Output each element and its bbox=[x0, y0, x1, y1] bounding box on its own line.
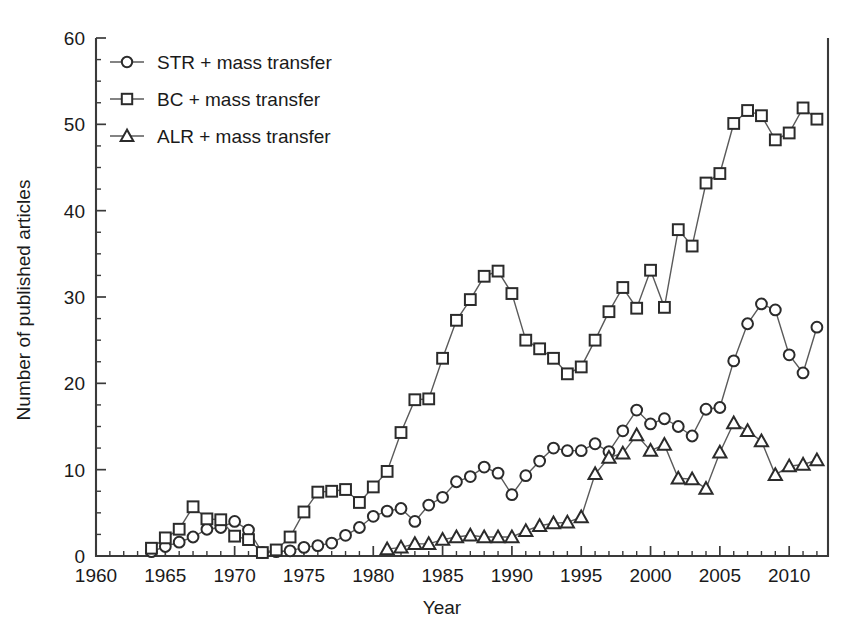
data-point bbox=[340, 484, 351, 495]
data-point bbox=[215, 514, 226, 525]
data-point bbox=[784, 349, 795, 360]
data-point bbox=[645, 265, 656, 276]
data-point bbox=[451, 315, 462, 326]
series-3 bbox=[381, 416, 824, 554]
data-point bbox=[174, 524, 185, 535]
data-point bbox=[285, 545, 296, 556]
data-point bbox=[798, 103, 809, 114]
data-point bbox=[812, 114, 823, 125]
data-point bbox=[562, 445, 573, 456]
data-point bbox=[285, 532, 296, 543]
data-point bbox=[756, 299, 767, 310]
data-point bbox=[396, 427, 407, 438]
data-point bbox=[188, 501, 199, 512]
series-1 bbox=[146, 299, 822, 558]
data-point bbox=[631, 405, 642, 416]
x-tick-label: 2005 bbox=[699, 565, 741, 586]
chart-figure: 1960196519701975198019851990199520002005… bbox=[0, 0, 848, 635]
data-point bbox=[741, 424, 754, 436]
data-point bbox=[505, 530, 518, 542]
data-point bbox=[770, 134, 781, 145]
data-point bbox=[756, 110, 767, 121]
data-point bbox=[658, 438, 671, 450]
x-tick-label: 1980 bbox=[352, 565, 394, 586]
data-point bbox=[409, 516, 420, 527]
data-point bbox=[354, 522, 365, 533]
data-point bbox=[617, 425, 628, 436]
data-point bbox=[491, 530, 504, 542]
data-point bbox=[229, 516, 240, 527]
data-point bbox=[520, 335, 531, 346]
data-point bbox=[534, 456, 545, 467]
data-point bbox=[520, 470, 531, 481]
x-tick-label: 2010 bbox=[768, 565, 810, 586]
data-point bbox=[673, 421, 684, 432]
data-point bbox=[340, 530, 351, 541]
data-point bbox=[451, 476, 462, 487]
data-point bbox=[617, 282, 628, 293]
data-point bbox=[257, 547, 268, 558]
data-point bbox=[354, 497, 365, 508]
data-point bbox=[368, 482, 379, 493]
data-point bbox=[174, 537, 185, 548]
data-point bbox=[507, 288, 518, 299]
data-point bbox=[714, 402, 725, 413]
data-point bbox=[701, 404, 712, 415]
data-point bbox=[575, 511, 588, 523]
legend-entry-circle: STR + mass transfer bbox=[110, 52, 332, 73]
data-point bbox=[699, 482, 712, 494]
data-point bbox=[673, 224, 684, 235]
legend-label: ALR + mass transfer bbox=[157, 126, 331, 147]
data-point bbox=[784, 128, 795, 139]
x-tick-label: 1995 bbox=[560, 565, 602, 586]
data-point bbox=[507, 489, 518, 500]
data-point bbox=[728, 118, 739, 129]
data-point bbox=[742, 318, 753, 329]
data-point bbox=[464, 529, 477, 541]
data-point bbox=[202, 513, 213, 524]
data-point bbox=[590, 335, 601, 346]
data-point bbox=[798, 368, 809, 379]
data-point bbox=[687, 241, 698, 252]
data-point bbox=[519, 524, 532, 536]
y-tick-label: 50 bbox=[64, 114, 85, 135]
axis-tick-labels: 1960196519701975198019851990199520002005… bbox=[64, 28, 810, 586]
data-point bbox=[312, 540, 323, 551]
data-point bbox=[396, 503, 407, 514]
legend-entry-triangle: ALR + mass transfer bbox=[110, 126, 331, 147]
data-point bbox=[727, 416, 740, 428]
data-point bbox=[742, 105, 753, 116]
data-point bbox=[590, 438, 601, 449]
axes bbox=[96, 38, 828, 556]
data-point bbox=[146, 543, 157, 554]
data-series bbox=[146, 103, 823, 558]
data-point bbox=[548, 353, 559, 364]
y-tick-label: 30 bbox=[64, 287, 85, 308]
data-point bbox=[479, 271, 490, 282]
legend-marker-circle bbox=[122, 57, 132, 67]
data-point bbox=[561, 516, 574, 528]
data-point bbox=[423, 500, 434, 511]
data-point bbox=[604, 306, 615, 317]
data-point bbox=[562, 368, 573, 379]
y-tick-label: 0 bbox=[74, 546, 85, 567]
data-point bbox=[423, 393, 434, 404]
data-point bbox=[479, 462, 490, 473]
chart-legend: STR + mass transferBC + mass transferALR… bbox=[110, 52, 332, 147]
data-point bbox=[659, 302, 670, 313]
data-point bbox=[645, 419, 656, 430]
data-point bbox=[755, 435, 768, 447]
series-2 bbox=[146, 103, 822, 558]
legend-marker-square bbox=[122, 94, 132, 104]
x-tick-label: 1975 bbox=[283, 565, 325, 586]
data-point bbox=[659, 413, 670, 424]
y-tick-label: 40 bbox=[64, 201, 85, 222]
data-point bbox=[714, 168, 725, 179]
data-point bbox=[534, 343, 545, 354]
x-tick-label: 1985 bbox=[421, 565, 463, 586]
chart-canvas: 1960196519701975198019851990199520002005… bbox=[0, 0, 848, 635]
y-axis-title: Number of published articles bbox=[13, 180, 34, 421]
x-tick-label: 1990 bbox=[491, 565, 533, 586]
data-point bbox=[160, 532, 171, 543]
data-point bbox=[672, 472, 685, 484]
